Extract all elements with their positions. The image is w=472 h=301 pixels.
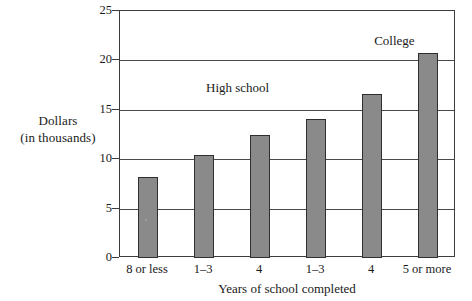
y-tick-mark-0	[112, 257, 119, 258]
y-tick-mark-20	[112, 59, 119, 60]
y-axis-title-line2: (in thousands)	[6, 129, 110, 146]
x-tick-label: 1–3	[306, 262, 325, 276]
y-tick-mark-15	[112, 109, 119, 110]
y-tick-label-15: 15	[86, 103, 112, 115]
x-tick-label: 1–3	[194, 262, 213, 276]
gridline-15	[120, 110, 454, 111]
y-tick-mark-5	[112, 208, 119, 209]
bar-chart-figure: Dollars (in thousands) 0510152025 High s…	[0, 0, 472, 301]
gridline-5	[120, 209, 454, 210]
gridline-10	[120, 159, 454, 160]
x-tick-label: 4	[256, 262, 262, 276]
x-tick-label: 5 or more	[403, 262, 452, 276]
y-tick-label-25: 25	[86, 4, 112, 16]
annotation-high-school: High school	[206, 81, 269, 95]
x-axis-title: Years of school completed	[119, 281, 455, 296]
annotation-college: College	[374, 34, 414, 48]
gridline-20	[120, 60, 454, 61]
x-tick-label: 8 or less	[126, 262, 168, 276]
y-tick-mark-25	[112, 10, 119, 11]
y-tick-label-10: 10	[86, 152, 112, 164]
y-axis-title: Dollars (in thousands)	[6, 112, 110, 146]
bar	[418, 53, 438, 258]
y-tick-label-0: 0	[86, 251, 112, 263]
bar	[306, 119, 326, 258]
y-tick-label-5: 5	[86, 202, 112, 214]
bar	[138, 177, 158, 258]
bar	[194, 155, 214, 258]
bar	[250, 135, 270, 258]
stray-speck	[145, 219, 147, 221]
plot-area: High schoolCollege	[119, 10, 455, 257]
x-tick-label: 4	[368, 262, 374, 276]
bar	[362, 94, 382, 258]
y-tick-label-20: 20	[86, 53, 112, 65]
y-tick-mark-10	[112, 158, 119, 159]
